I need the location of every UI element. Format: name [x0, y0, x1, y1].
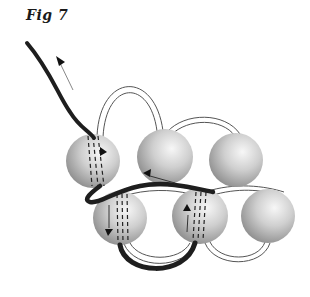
bead-top-1 — [66, 134, 120, 188]
thread-bottom-loop — [120, 243, 195, 268]
thread-loop-bottom-2-to-bottom-3 — [205, 243, 270, 262]
beadwork-diagram — [0, 0, 310, 297]
thread-loop-top-2-to-top-3 — [167, 117, 240, 134]
thread-loop-top-1-to-top-2 — [97, 87, 163, 136]
thread-tail — [27, 43, 94, 138]
direction-line-exit — [60, 63, 73, 90]
bead-top-2 — [137, 129, 193, 185]
bead-top-3 — [209, 133, 263, 187]
bead-bottom-3 — [241, 189, 295, 243]
exit-arrow-icon — [56, 56, 65, 66]
